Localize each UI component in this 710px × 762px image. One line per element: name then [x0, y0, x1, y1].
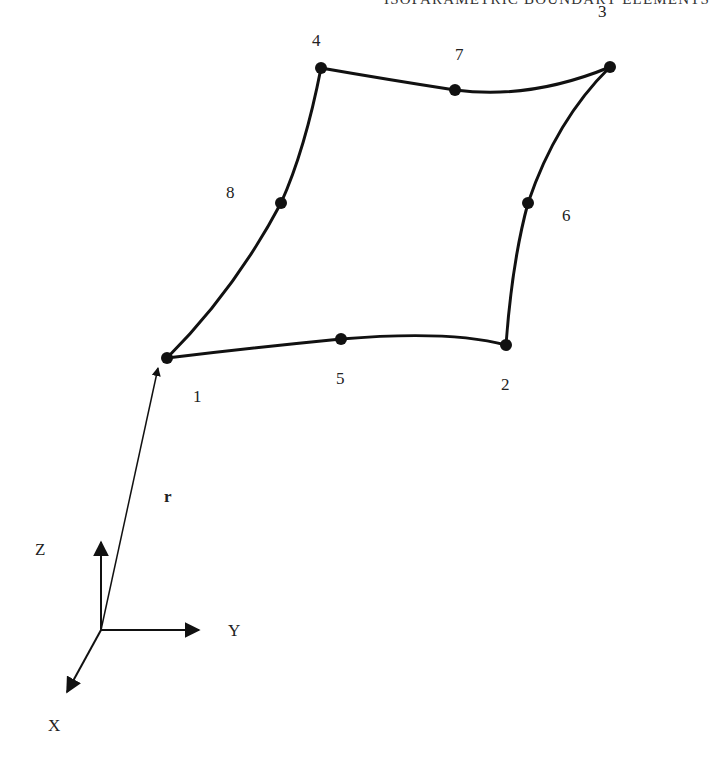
node-2	[500, 339, 512, 351]
node-3	[604, 61, 616, 73]
element-boundary	[167, 67, 610, 358]
node-label-4: 4	[312, 32, 321, 49]
node-label-8: 8	[226, 184, 235, 201]
element-nodes	[161, 61, 616, 364]
coordinate-axes	[67, 542, 199, 692]
node-label-5: 5	[336, 370, 345, 387]
node-8	[275, 197, 287, 209]
edge-4-8-1	[167, 68, 321, 358]
vector-label-r: r	[164, 488, 172, 505]
x-axis-arrow	[67, 630, 101, 692]
node-1	[161, 352, 173, 364]
node-7	[449, 84, 461, 96]
node-label-3: 3	[598, 3, 607, 20]
node-label-6: 6	[562, 207, 571, 224]
position-vector-r	[101, 368, 158, 630]
axis-label-x: X	[48, 717, 60, 734]
node-5	[335, 333, 347, 345]
node-4	[315, 62, 327, 74]
edge-3-7-4	[321, 67, 610, 92]
node-label-7: 7	[455, 46, 464, 63]
node-label-2: 2	[501, 376, 510, 393]
node-6	[522, 197, 534, 209]
edge-2-6-3	[506, 67, 610, 345]
axis-label-y: Y	[228, 622, 240, 639]
axis-label-z: Z	[35, 541, 45, 558]
node-label-1: 1	[193, 388, 202, 405]
